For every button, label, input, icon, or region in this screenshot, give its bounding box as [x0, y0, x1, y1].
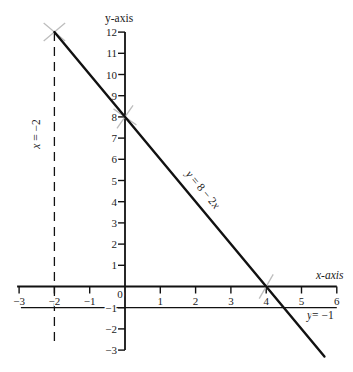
graph-figure: −3−2−10123456−3−2−1123456789101112y-axis…	[0, 0, 353, 372]
y-tick-label: 8	[112, 111, 118, 123]
y-tick-label: 1	[112, 259, 118, 271]
y-tick-label: 6	[112, 153, 118, 165]
y-tick-label: 10	[106, 69, 118, 81]
y-tick-label: 3	[112, 217, 118, 229]
y-tick-label: 12	[106, 26, 117, 38]
y-tick-label: 7	[112, 132, 118, 144]
x-tick-label: 4	[263, 295, 269, 307]
x-tick-label: −3	[13, 295, 25, 307]
y-tick-label: −3	[105, 344, 117, 356]
y-tick-label: −1	[105, 302, 117, 314]
y-tick-label: 2	[112, 238, 118, 250]
x-tick-label: −1	[84, 295, 96, 307]
x-tick-label: 0	[117, 288, 123, 300]
equation-part: = −2	[30, 119, 42, 144]
x-tick-label: 3	[228, 295, 234, 307]
x-tick-label: 6	[334, 295, 340, 307]
y-tick-label: 4	[112, 196, 118, 208]
horizontal-line-label: y= −1	[306, 309, 334, 322]
x-axis-label: x-axis	[315, 269, 344, 281]
y-tick-label: 11	[106, 47, 117, 59]
coordinate-plot: −3−2−10123456−3−2−1123456789101112y-axis…	[0, 0, 353, 372]
x-tick-label: 2	[193, 295, 199, 307]
vertical-line-label: x = −2	[30, 119, 42, 150]
y-tick-label: 5	[112, 175, 118, 187]
y-tick-label: −2	[105, 323, 117, 335]
x-tick-label: −2	[49, 295, 61, 307]
x-tick-label: 1	[158, 295, 164, 307]
equation-part: = −1	[312, 309, 334, 321]
y-axis-label: y-axis	[105, 12, 134, 25]
equation-part: = 8 − 2	[187, 172, 219, 207]
x-tick-label: 5	[299, 295, 305, 307]
line-equation-label: y = 8 − 2x	[182, 167, 223, 212]
